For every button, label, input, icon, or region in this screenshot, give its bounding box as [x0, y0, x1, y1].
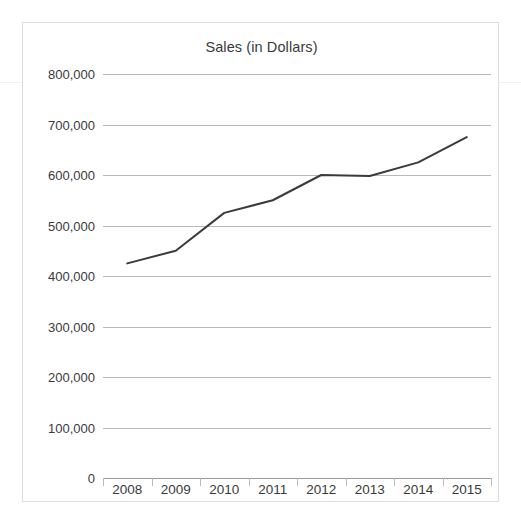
x-axis-tick-label: 2015	[452, 482, 482, 497]
x-axis-tick-label: 2008	[112, 482, 142, 497]
y-axis-tick-label: 300,000	[23, 319, 95, 334]
x-axis-tick-label: 2009	[161, 482, 191, 497]
y-axis-tick-label: 800,000	[23, 67, 95, 82]
x-axis-tick	[103, 478, 104, 486]
clipped-top-text	[0, 0, 521, 7]
y-axis-tick-label: 600,000	[23, 168, 95, 183]
x-axis-tick	[297, 478, 298, 486]
x-axis-tick	[200, 478, 201, 486]
plot-area	[103, 74, 491, 478]
y-axis-tick-label: 0	[23, 471, 95, 486]
y-axis-tick-label: 400,000	[23, 269, 95, 284]
x-axis-tick-label: 2012	[306, 482, 336, 497]
chart-container: Sales (in Dollars) 0100,000200,000300,00…	[22, 22, 499, 502]
x-axis-tick-label: 2010	[209, 482, 239, 497]
x-axis-tick	[346, 478, 347, 486]
series-polyline	[127, 137, 467, 263]
y-axis-tick-label: 700,000	[23, 117, 95, 132]
x-axis-tick	[249, 478, 250, 486]
x-axis-tick	[443, 478, 444, 486]
x-axis-tick-label: 2013	[355, 482, 385, 497]
y-axis-tick-labels: 0100,000200,000300,000400,000500,000600,…	[23, 74, 95, 478]
y-axis-tick-label: 200,000	[23, 370, 95, 385]
series-line-sales	[103, 74, 491, 478]
y-axis-tick-label: 500,000	[23, 218, 95, 233]
x-axis-tick	[491, 478, 492, 486]
x-axis-tick	[394, 478, 395, 486]
x-axis-tick-label: 2011	[258, 482, 287, 497]
y-axis-tick-label: 100,000	[23, 420, 95, 435]
x-axis-tick	[152, 478, 153, 486]
chart-title: Sales (in Dollars)	[23, 39, 500, 55]
x-axis-tick-label: 2014	[403, 482, 433, 497]
